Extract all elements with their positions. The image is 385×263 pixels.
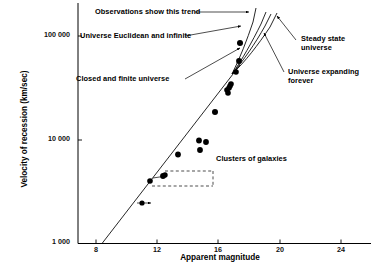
data-point <box>237 40 243 46</box>
data-point <box>162 172 167 177</box>
leader-closed <box>185 48 240 79</box>
data-point <box>228 81 234 87</box>
y-axis-title: Velocity of recession (km/sec) <box>20 71 29 188</box>
leader-steady-state <box>277 16 296 40</box>
data-point <box>175 152 181 158</box>
data-point <box>225 90 231 96</box>
data-point <box>196 138 202 144</box>
data-point <box>212 109 218 115</box>
annotation-steady-state-line2: universe <box>301 44 332 52</box>
x-axis-ticks <box>96 240 341 244</box>
leader-expanding <box>264 33 284 72</box>
data-point <box>147 178 153 184</box>
data-point <box>233 69 239 75</box>
data-point <box>197 147 203 153</box>
annotation-expanding-forever-line2: forever <box>288 77 313 85</box>
y-axis-ticks <box>78 36 82 244</box>
x-tick-label-24: 24 <box>331 246 351 254</box>
clusters-leader-dashed <box>152 171 213 186</box>
hubble-diagram-chart: 100 000 10 000 1 000 8 12 16 20 24 Appar… <box>0 0 385 263</box>
annotation-universe-euclidean: Universe Euclidean and infinite <box>80 32 191 40</box>
data-point <box>236 58 242 64</box>
y-tick-label-100000: 100 000 <box>22 31 70 39</box>
y-axis-title-wrapper: Velocity of recession (km/sec) <box>13 54 31 204</box>
x-tick-label-8: 8 <box>86 246 106 254</box>
leader-euclidean <box>185 26 241 36</box>
x-axis-title: Apparent magnitude <box>150 253 290 262</box>
y-tick-label-1000: 1 000 <box>22 238 70 246</box>
annotation-observations-trend: Observations show this trend <box>95 8 200 16</box>
data-point <box>203 139 209 145</box>
data-points <box>139 40 243 206</box>
annotation-closed-finite-universe: Closed and finite universe <box>76 75 169 83</box>
annotation-clusters-of-galaxies: Clusters of galaxies <box>216 155 287 163</box>
